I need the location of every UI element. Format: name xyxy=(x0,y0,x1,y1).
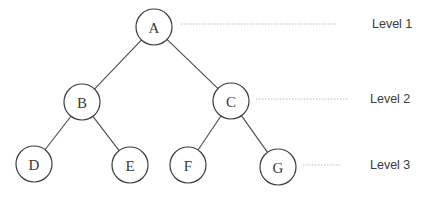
tree-node-g: G xyxy=(260,149,296,185)
node-label: E xyxy=(125,158,134,174)
tree-node-b: B xyxy=(64,84,100,120)
node-label: B xyxy=(77,95,87,111)
node-label: F xyxy=(184,158,192,174)
tree-node-f: F xyxy=(170,147,206,183)
edge-b-e xyxy=(93,116,119,150)
level-2-label: Level 2 xyxy=(370,92,410,106)
edge-c-f xyxy=(198,116,221,150)
tree-node-a: A xyxy=(136,9,172,45)
tree-node-c: C xyxy=(213,83,249,119)
edge-b-d xyxy=(45,116,71,150)
binary-tree-diagram: ABCDEFG Level 1Level 2Level 3 xyxy=(0,0,426,197)
node-label: G xyxy=(273,160,284,176)
edge-a-c xyxy=(167,39,218,88)
tree-node-d: D xyxy=(16,146,52,182)
node-label: D xyxy=(29,157,40,173)
edge-a-b xyxy=(94,40,141,89)
edge-c-g xyxy=(241,116,267,153)
level-labels: Level 1Level 2Level 3 xyxy=(370,17,412,172)
node-label: C xyxy=(226,94,236,110)
tree-nodes: ABCDEFG xyxy=(16,9,296,185)
level-3-label: Level 3 xyxy=(370,158,410,172)
level-1-label: Level 1 xyxy=(372,17,412,31)
level-guides xyxy=(181,24,349,165)
node-label: A xyxy=(149,20,160,36)
tree-node-e: E xyxy=(112,147,148,183)
